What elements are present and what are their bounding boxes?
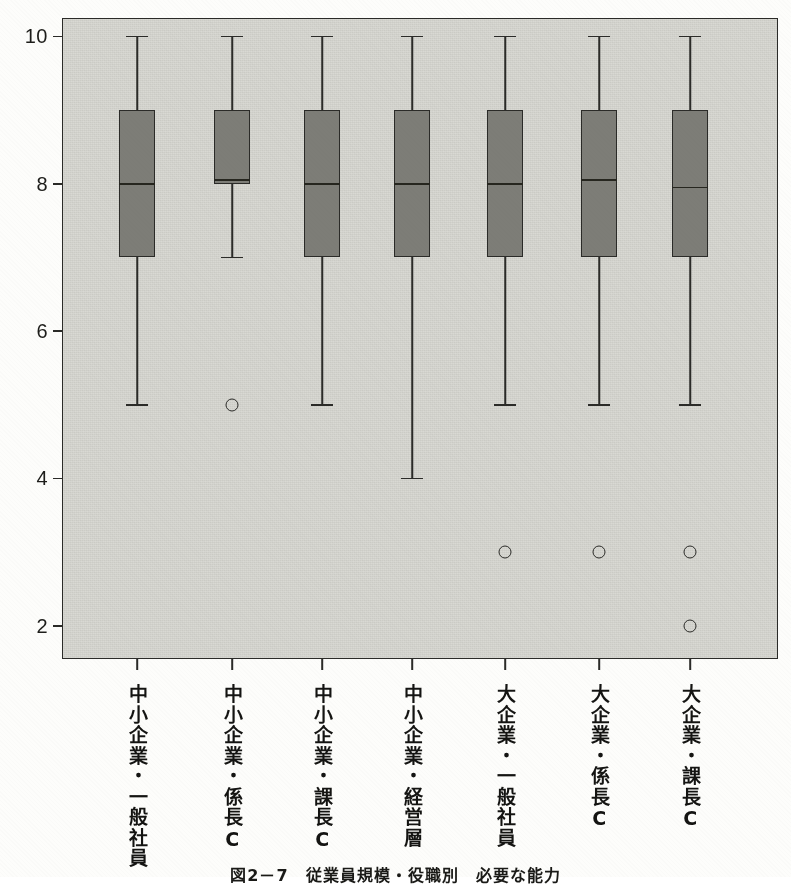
whisker-lower [231,184,233,258]
y-tick-label: 8 [0,172,48,195]
x-category-label: 中小企業・課長C [312,684,332,851]
box-iqr [581,110,617,257]
box-iqr [672,110,708,257]
whisker-cap-upper [126,36,148,38]
outlier-point [226,398,239,411]
x-category-label: 中小企業・経営層 [402,684,422,848]
whisker-cap-lower [401,478,423,480]
whisker-upper [231,36,233,110]
whisker-cap-upper [588,36,610,38]
y-tick-label: 6 [0,320,48,343]
whisker-cap-lower [679,404,701,406]
y-tick-label: 4 [0,467,48,490]
y-tick-mark [53,478,62,480]
y-tick-mark [53,625,62,627]
median-line [487,183,523,185]
box-iqr [214,110,250,184]
whisker-lower [504,257,506,404]
x-tick-mark [598,659,600,670]
whisker-cap-lower [126,404,148,406]
whisker-cap-upper [311,36,333,38]
whisker-upper [689,36,691,110]
whisker-upper [321,36,323,110]
whisker-cap-lower [494,404,516,406]
whisker-lower [136,257,138,404]
outlier-point [684,546,697,559]
y-axis: 108642 [0,0,62,877]
whisker-cap-upper [494,36,516,38]
y-tick-label: 10 [0,25,48,48]
whisker-lower [411,257,413,478]
median-line [672,187,708,189]
median-line [394,183,430,185]
y-tick-mark [53,36,62,38]
x-category-label: 中小企業・一般社員 [127,684,147,869]
whisker-upper [411,36,413,110]
whisker-lower [598,257,600,404]
figure-caption: 図2－7 従業員規模・役職別 必要な能力 [0,862,791,886]
outlier-point [499,546,512,559]
whisker-cap-lower [311,404,333,406]
whisker-lower [321,257,323,404]
median-line [119,183,155,185]
whisker-cap-lower [588,404,610,406]
whisker-upper [504,36,506,110]
x-category-label: 中小企業・係長C [222,684,242,851]
median-line [214,179,250,181]
x-tick-mark [411,659,413,670]
x-category-label: 大企業・課長C [680,684,700,831]
x-tick-mark [689,659,691,670]
whisker-upper [598,36,600,110]
x-tick-mark [321,659,323,670]
whisker-cap-upper [679,36,701,38]
whisker-cap-upper [221,36,243,38]
whisker-cap-upper [401,36,423,38]
median-line [304,183,340,185]
whisker-cap-lower [221,257,243,259]
whisker-upper [136,36,138,110]
median-line [581,179,617,181]
x-category-label: 大企業・一般社員 [495,684,515,848]
y-tick-mark [53,183,62,185]
x-tick-mark [136,659,138,670]
y-tick-label: 2 [0,614,48,637]
outlier-point [593,546,606,559]
x-tick-mark [231,659,233,670]
outlier-point [684,619,697,632]
x-tick-mark [504,659,506,670]
x-category-label: 大企業・係長C [589,684,609,831]
whisker-lower [689,257,691,404]
y-tick-mark [53,330,62,332]
